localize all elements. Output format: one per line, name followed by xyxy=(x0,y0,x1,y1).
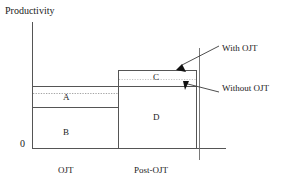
region-a-label: A xyxy=(63,93,70,102)
diagram-svg xyxy=(0,0,284,188)
without-ojt-arrowhead-icon xyxy=(183,81,189,90)
region-b-label: B xyxy=(63,128,69,137)
region-c-label: C xyxy=(153,73,159,82)
region-d-label: D xyxy=(153,113,160,122)
x-tick-label-post-ojt: Post-OJT xyxy=(134,166,168,175)
without-ojt-leader-line xyxy=(184,83,219,92)
figure-canvas: Productivity 0 A B C D OJT Post-OJT With… xyxy=(0,0,284,188)
origin-label: 0 xyxy=(20,139,25,149)
with-ojt-leader-line xyxy=(182,46,219,65)
x-tick-label-ojt: OJT xyxy=(58,166,74,175)
y-axis-title: Productivity xyxy=(5,6,54,16)
callout-label-without-ojt: Without OJT xyxy=(222,84,269,93)
callout-label-with-ojt: With OJT xyxy=(222,44,257,53)
